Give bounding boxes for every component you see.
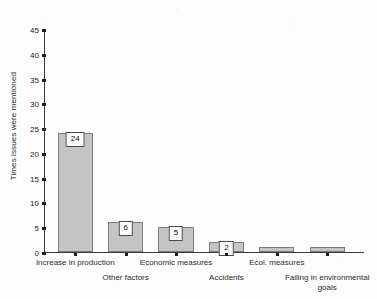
y-tick-label: 15 — [30, 174, 39, 183]
y-tick-label: 40 — [30, 50, 39, 59]
x-axis-category-label: Increase in production — [36, 258, 115, 268]
y-tick-label: 30 — [30, 100, 39, 109]
bar-value-label: 6 — [118, 221, 132, 236]
x-tick-mark — [225, 253, 228, 256]
x-tick-mark — [175, 253, 178, 256]
bar-series: 24652 — [44, 30, 364, 252]
bar — [58, 133, 93, 252]
x-axis-line — [44, 252, 364, 253]
bar — [259, 247, 294, 252]
y-axis-title: Times issues were mentioned — [6, 0, 20, 253]
bar — [310, 247, 345, 252]
x-tick-mark — [125, 253, 128, 256]
x-axis-category-label: Other factors — [103, 273, 149, 283]
x-tick-mark — [74, 253, 77, 256]
plot-area: 051015202530354045 24652 — [44, 30, 364, 253]
y-tick-label: 45 — [30, 26, 39, 35]
y-tick-mark — [42, 252, 46, 255]
bar-value-label: 24 — [66, 132, 85, 147]
x-axis-category-label: Accidents — [209, 273, 244, 283]
y-tick-label: 20 — [30, 149, 39, 158]
x-axis-category-label: Economic measures — [140, 258, 212, 268]
x-tick-mark — [276, 253, 279, 256]
y-tick-label: 10 — [30, 199, 39, 208]
x-axis-category-label: Ecol. measures — [249, 258, 304, 268]
y-tick-label: 35 — [30, 75, 39, 84]
bar-value-label: 5 — [169, 226, 183, 241]
y-tick-label: 5 — [35, 224, 39, 233]
y-tick-label: 0 — [35, 249, 39, 258]
y-tick-label: 25 — [30, 125, 39, 134]
chart-figure: Times issues were mentioned 051015202530… — [0, 0, 377, 299]
x-tick-mark — [326, 253, 329, 256]
x-axis-category-label: Failing in environmental goals — [283, 273, 371, 293]
